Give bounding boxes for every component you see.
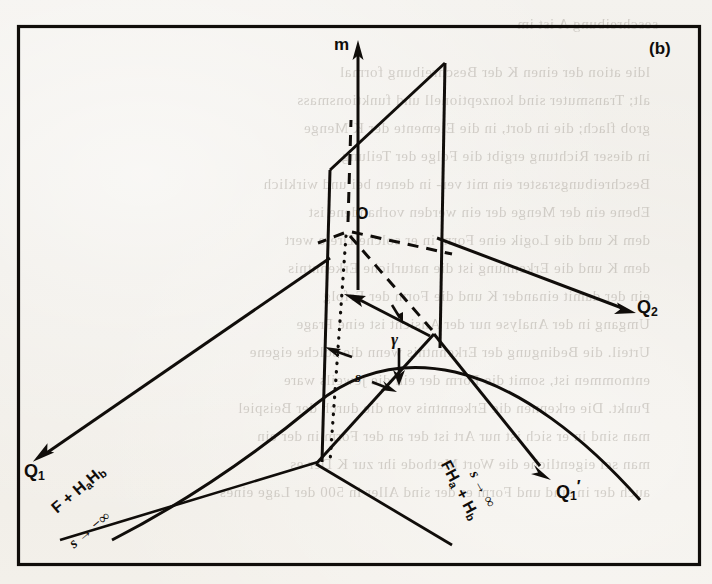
- vertical-plane: [322, 63, 445, 462]
- figure-b: m O γ s Q1 Q2 Q1′ F + HaHb s → −∞ FHa + …: [0, 0, 712, 584]
- axis-label-q1: Q1: [24, 462, 45, 482]
- wedge-edges: [316, 334, 452, 545]
- distance-label-s: s: [355, 370, 361, 385]
- axis-label-q1-prime: Q1′: [556, 478, 581, 503]
- axis-label-m: m: [334, 36, 349, 53]
- angle-label-gamma: γ: [391, 331, 398, 348]
- dashed-construction-lines: [318, 120, 452, 330]
- Q1-axis: [33, 258, 330, 462]
- figure-vector-drawing: [0, 0, 712, 584]
- m-axis: [353, 40, 364, 290]
- point-label-O: O: [356, 206, 368, 222]
- axis-label-q2: Q2: [637, 298, 658, 318]
- reaction-path-curve: [112, 367, 640, 540]
- panel-label: (b): [649, 40, 671, 57]
- Q2-axis: [437, 238, 636, 314]
